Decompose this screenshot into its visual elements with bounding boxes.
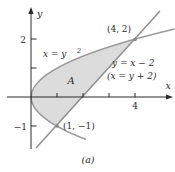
x-axis-label: x xyxy=(166,80,172,91)
y-axis-label: y xyxy=(36,8,43,19)
y-axis-arrowhead xyxy=(28,7,33,14)
parabola-equation-label: x = y xyxy=(43,49,67,59)
parabola-equation-exponent: 2 xyxy=(76,47,81,55)
figure-caption: (a) xyxy=(81,154,94,165)
line-equation-label-1: y = x − 2 xyxy=(111,58,155,68)
region-A-label: A xyxy=(66,75,74,86)
x-axis-arrowhead xyxy=(166,94,173,99)
math-figure: y x 2 −1 4 x = y 2 A y = x − 2 (x = y + … xyxy=(0,0,175,172)
line-equation-label-2: (x = y + 2) xyxy=(107,71,157,81)
point-label-1-neg1: (1, −1) xyxy=(63,121,95,131)
intersection-dot-4-2 xyxy=(133,38,137,42)
y-tick-label-2: 2 xyxy=(20,35,26,45)
y-tick-label-neg1: −1 xyxy=(14,122,27,132)
x-tick-label-4: 4 xyxy=(132,101,138,111)
point-label-4-2: (4, 2) xyxy=(107,24,131,34)
figure-canvas: y x 2 −1 4 x = y 2 A y = x − 2 (x = y + … xyxy=(0,0,175,172)
intersection-dot-1-neg1 xyxy=(55,124,59,128)
